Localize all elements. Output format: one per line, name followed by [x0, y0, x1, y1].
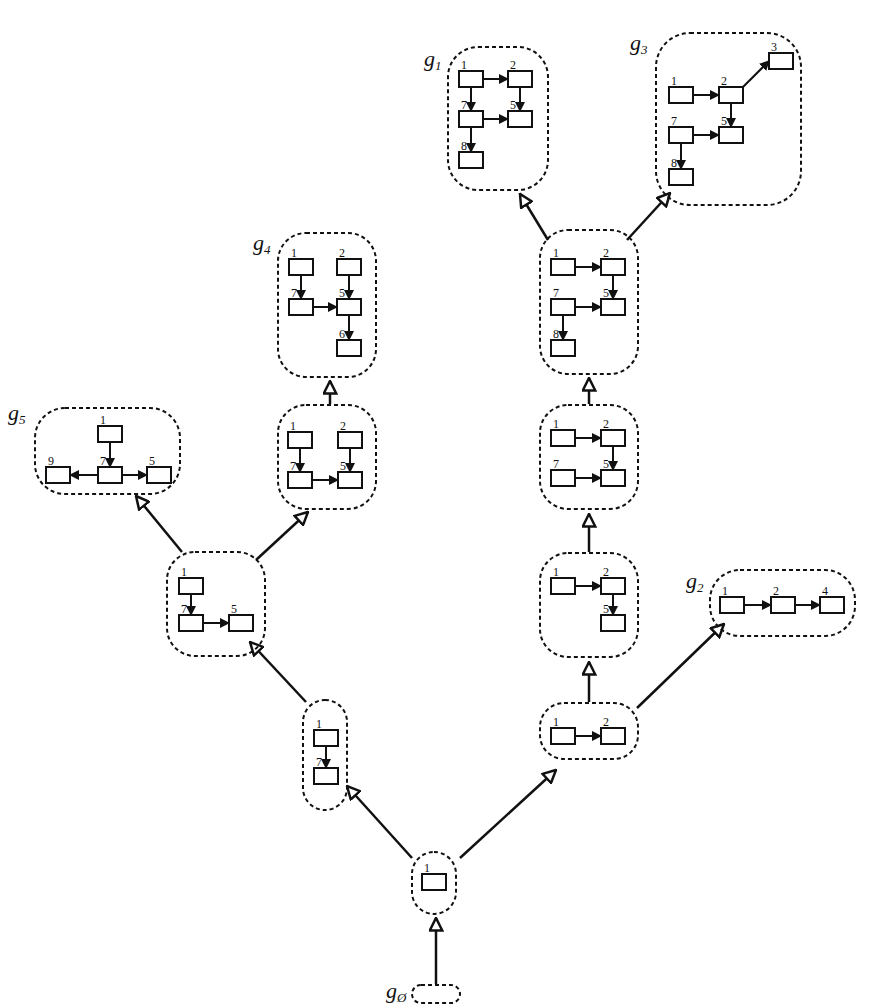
node-label: 7 — [290, 459, 296, 473]
node-label: 5 — [603, 457, 609, 471]
group-label: g3 — [630, 30, 648, 57]
node-box — [551, 299, 575, 315]
node-box — [601, 430, 625, 446]
node-box — [669, 87, 693, 103]
node-box — [601, 578, 625, 594]
node-box — [551, 470, 575, 486]
node-label: 5 — [340, 459, 346, 473]
node-label: 7 — [181, 602, 187, 616]
node-label: 1 — [671, 74, 677, 88]
node-box — [719, 127, 743, 143]
node-box — [98, 426, 122, 442]
node-box — [46, 467, 70, 483]
lattice-edge-arrow — [250, 642, 306, 702]
node-box — [459, 152, 483, 168]
node-label: 5 — [149, 454, 155, 468]
node-box — [229, 615, 253, 631]
node-box — [508, 111, 532, 127]
graph-group-g1: g112758 — [424, 46, 548, 190]
graph-group-n125: 125 — [540, 553, 638, 657]
node-label: 5 — [339, 286, 345, 300]
graph-group-g4: g412756 — [253, 230, 376, 377]
group-label: g1 — [424, 46, 442, 73]
node-label: 7 — [291, 286, 297, 300]
node-label: 2 — [721, 74, 727, 88]
group-label: g4 — [253, 230, 271, 257]
node-label: 7 — [553, 286, 559, 300]
graph-group-n1275b: 1275 — [278, 405, 376, 509]
node-box — [669, 169, 693, 185]
graph-group-n1: 1 — [412, 852, 456, 914]
graph-groups: gØ11712175125g212412751275g51975g4127561… — [8, 30, 855, 1005]
node-label: 2 — [340, 419, 346, 433]
node-box — [551, 340, 575, 356]
lattice-edge-arrow — [136, 496, 182, 552]
node-label: 9 — [48, 454, 54, 468]
graph-group-g_empty: gØ — [386, 978, 460, 1005]
node-label: 6 — [339, 327, 345, 341]
graph-group-n175: 175 — [167, 552, 265, 656]
node-label: 2 — [510, 58, 516, 72]
node-box — [508, 71, 532, 87]
node-label: 3 — [771, 40, 777, 54]
graph-group-g2: g2124 — [686, 568, 855, 636]
node-label: 4 — [822, 584, 828, 598]
node-box — [98, 467, 122, 483]
node-box — [422, 874, 446, 890]
node-label: 1 — [553, 715, 559, 729]
node-box — [337, 299, 361, 315]
node-label: 7 — [553, 457, 559, 471]
graph-group-n17: 17 — [303, 700, 347, 810]
node-label: 1 — [722, 584, 728, 598]
group-label: g2 — [686, 568, 704, 595]
node-label: 5 — [603, 286, 609, 300]
graph-group-g5: g51975 — [8, 400, 180, 494]
node-label: 7 — [671, 114, 677, 128]
dashed-group-outline — [412, 985, 460, 1003]
node-box — [769, 53, 793, 69]
node-label: 1 — [461, 58, 467, 72]
node-label: 2 — [603, 565, 609, 579]
node-label: 2 — [603, 246, 609, 260]
node-label: 5 — [721, 114, 727, 128]
node-box — [288, 472, 312, 488]
node-box — [179, 615, 203, 631]
node-label: 2 — [603, 715, 609, 729]
group-label: gØ — [386, 978, 407, 1005]
node-box — [314, 730, 338, 746]
node-box — [337, 259, 361, 275]
node-box — [719, 87, 743, 103]
node-label: 1 — [553, 417, 559, 431]
lattice-edge-arrow — [256, 512, 308, 560]
node-label: 2 — [603, 417, 609, 431]
node-box — [147, 467, 171, 483]
node-box — [601, 615, 625, 631]
graph-group-n12: 12 — [540, 703, 638, 759]
node-label: 7 — [316, 755, 322, 769]
lattice-edges — [136, 193, 724, 984]
node-label: 5 — [510, 98, 516, 112]
node-label: 7 — [100, 454, 106, 468]
node-box — [601, 728, 625, 744]
node-label: 1 — [316, 717, 322, 731]
node-box — [669, 127, 693, 143]
node-label: 5 — [603, 602, 609, 616]
graph-group-g3: g3123758 — [630, 30, 801, 205]
node-box — [551, 430, 575, 446]
graph-group-n1275: 1275 — [540, 405, 638, 509]
node-box — [771, 597, 795, 613]
node-box — [289, 259, 313, 275]
lattice-edge-arrow — [347, 786, 412, 858]
lattice-edge-arrow — [520, 194, 548, 240]
node-label: 5 — [231, 602, 237, 616]
subgraph-lattice-diagram: gØ11712175125g212412751275g51975g4127561… — [0, 0, 875, 1005]
lattice-edge-arrow — [460, 770, 556, 858]
graph-group-n12758: 12758 — [540, 230, 638, 374]
group-label: g5 — [8, 400, 26, 427]
node-label: 2 — [773, 584, 779, 598]
node-label: 1 — [424, 861, 430, 875]
node-box — [720, 597, 744, 613]
node-label: 1 — [100, 413, 106, 427]
node-box — [289, 299, 313, 315]
node-box — [338, 472, 362, 488]
